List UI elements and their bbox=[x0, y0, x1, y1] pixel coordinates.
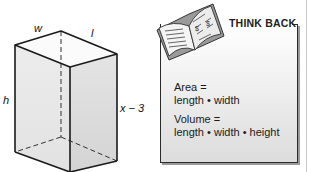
think-back-title: THINK BACK bbox=[229, 17, 296, 29]
area-formula: length • width bbox=[174, 94, 240, 107]
svg-text:$: $ bbox=[195, 25, 199, 32]
width-label: w bbox=[34, 22, 42, 34]
rectangular-prism-figure bbox=[0, 0, 150, 172]
side-expression-label: x − 3 bbox=[120, 102, 144, 114]
prism-right-face bbox=[70, 54, 117, 172]
open-book-icon: $ $ bbox=[153, 0, 228, 62]
height-label: h bbox=[3, 94, 9, 106]
volume-formula: length • width • height bbox=[174, 126, 280, 139]
volume-label: Volume = bbox=[174, 113, 220, 126]
svg-text:$: $ bbox=[206, 20, 210, 27]
length-label: l bbox=[91, 27, 93, 39]
page-divider-line bbox=[306, 0, 307, 172]
area-label: Area = bbox=[174, 81, 207, 94]
